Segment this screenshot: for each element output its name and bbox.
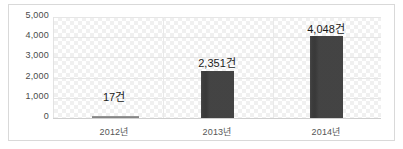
data-label-2013: 2,351건 bbox=[198, 54, 236, 70]
y-tick-label-3000: 3,000 bbox=[9, 51, 49, 60]
category-divider-1 bbox=[163, 17, 164, 118]
y-axis: 5,000 4,000 3,000 2,000 1,000 0 bbox=[9, 15, 49, 117]
category-divider-2 bbox=[273, 17, 274, 118]
y-tick-label-1000: 1,000 bbox=[9, 91, 49, 100]
gridline-5000 bbox=[54, 17, 381, 18]
bar-2013[interactable] bbox=[201, 71, 234, 119]
data-label-2014: 4,048건 bbox=[307, 20, 345, 36]
y-tick-label-4000: 4,000 bbox=[9, 31, 49, 40]
y-tick-label-0: 0 bbox=[9, 112, 49, 121]
x-axis-line bbox=[53, 118, 381, 119]
y-tick-label-5000: 5,000 bbox=[9, 11, 49, 20]
y-tick-label-2000: 2,000 bbox=[9, 71, 49, 80]
category-label-2014: 2014년 bbox=[311, 125, 340, 138]
category-label-2012: 2012년 bbox=[99, 125, 128, 138]
bar-2014[interactable] bbox=[310, 36, 343, 118]
category-label-2013: 2013년 bbox=[202, 125, 231, 138]
data-label-2012: 17건 bbox=[103, 88, 125, 104]
chart-frame: 5,000 4,000 3,000 2,000 1,000 0 17건 2,35… bbox=[8, 4, 395, 141]
